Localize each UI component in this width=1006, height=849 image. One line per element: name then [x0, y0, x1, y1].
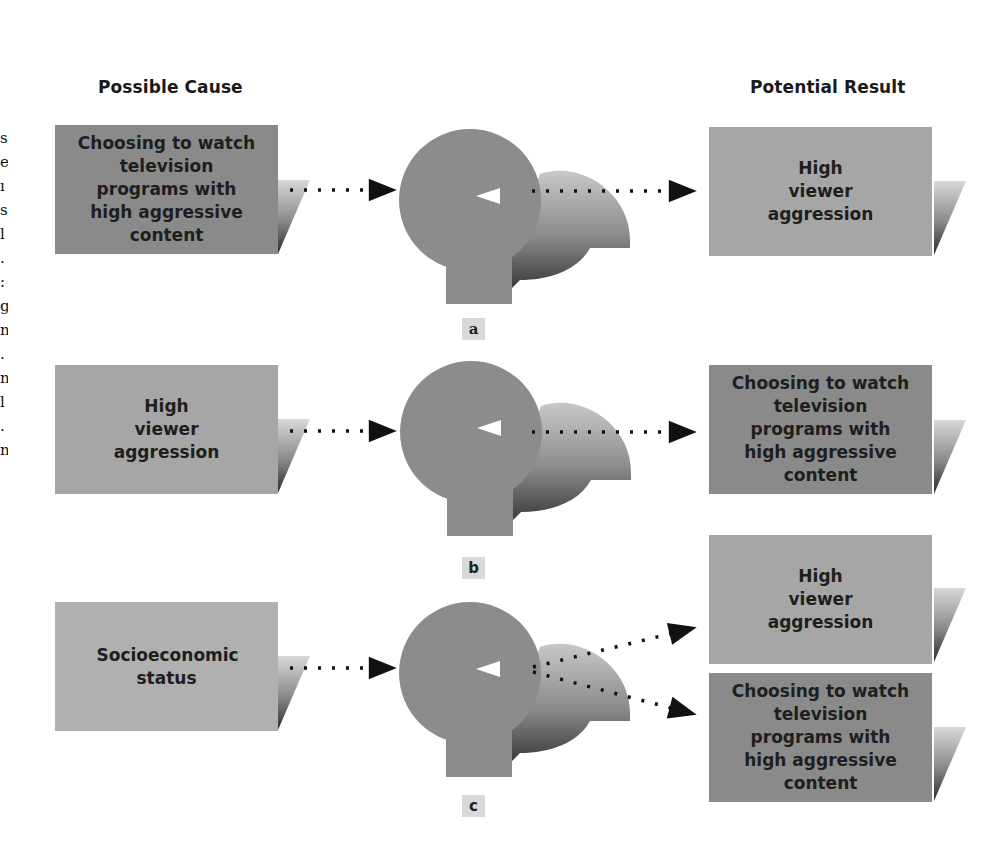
result-text-c1: High viewer aggression: [766, 565, 876, 634]
cause-box-a: Choosing to watch television programs wi…: [55, 125, 278, 254]
panel-label-c: c: [462, 795, 485, 817]
cause-text-a: Choosing to watch television programs wi…: [77, 132, 257, 247]
cause-text-c: Socioeconomic status: [97, 644, 237, 690]
result-box-b: Choosing to watch television programs wi…: [709, 365, 932, 494]
result-text-a: High viewer aggression: [766, 157, 876, 226]
tab-result-c1: [934, 588, 966, 662]
cause-box-c: Socioeconomic status: [55, 602, 278, 731]
tab-result-a: [934, 181, 966, 255]
tab-result-b: [934, 420, 966, 494]
result-box-a: High viewer aggression: [709, 127, 932, 256]
panel-label-b: b: [462, 557, 485, 579]
head-icon-b: [400, 361, 631, 536]
tab-result-c2: [934, 727, 966, 801]
result-box-c2: Choosing to watch television programs wi…: [709, 673, 932, 802]
result-text-b: Choosing to watch television programs wi…: [731, 372, 911, 487]
panel-label-a: a: [462, 318, 485, 340]
result-box-c1: High viewer aggression: [709, 535, 932, 664]
result-text-c2: Choosing to watch television programs wi…: [731, 680, 911, 795]
cause-text-b: High viewer aggression: [112, 395, 222, 464]
cause-box-b: High viewer aggression: [55, 365, 278, 494]
head-icon-c: [399, 602, 630, 777]
head-icon-a: [399, 129, 630, 304]
